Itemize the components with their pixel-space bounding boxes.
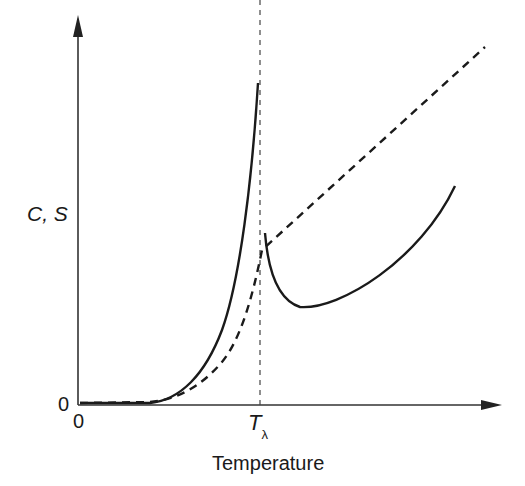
x-tick-zero: 0	[73, 410, 84, 433]
x-axis-label: Temperature	[212, 452, 324, 475]
x-axis-arrow-icon	[481, 400, 502, 410]
heat-capacity-curve-below	[80, 83, 258, 403]
y-axis-arrow-icon	[73, 15, 83, 37]
t-lambda-sub: λ	[261, 427, 268, 442]
t-lambda-main: T	[248, 410, 261, 435]
y-axis-label: C, S	[27, 202, 68, 226]
y-tick-zero: 0	[58, 393, 69, 416]
x-tick-t-lambda: Tλ	[248, 410, 268, 438]
entropy-curve	[80, 47, 485, 403]
heat-capacity-curve-above	[265, 186, 455, 307]
